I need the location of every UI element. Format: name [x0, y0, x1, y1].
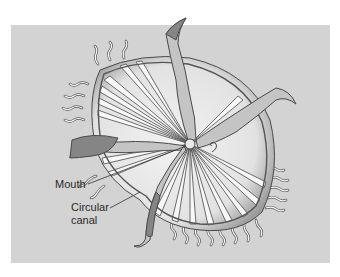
mouth — [185, 139, 195, 149]
circular-canal-label-line2: canal — [71, 214, 109, 227]
jellyfish-illustration — [0, 0, 340, 277]
mouth-label: Mouth — [55, 178, 86, 191]
circular-canal-leader-line — [110, 192, 140, 208]
circular-canal-label: Circular canal — [71, 201, 109, 227]
circular-canal-label-line1: Circular — [71, 201, 109, 214]
